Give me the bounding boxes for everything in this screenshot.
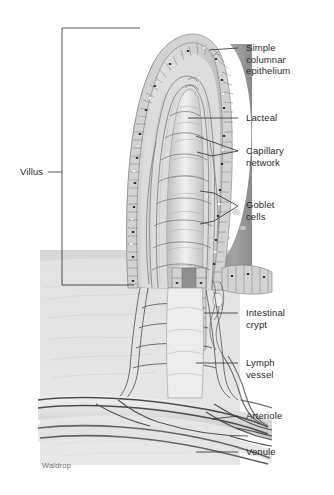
artist-signature: Waldrop <box>42 461 71 470</box>
central-lymph-trunk <box>167 288 204 398</box>
label-villus: Villus <box>20 166 43 178</box>
label-simple-columnar-epithelium: Simple columnar epithelium <box>246 42 290 77</box>
label-lymph-vessel: Lymph vessel <box>246 357 275 380</box>
label-intestinal-crypt: Intestinal crypt <box>246 307 285 330</box>
label-venule: Venule <box>246 446 276 458</box>
label-goblet-cells: Goblet cells <box>246 199 275 222</box>
label-lacteal: Lacteal <box>246 112 277 124</box>
label-capillary-network: Capillary network <box>246 145 284 168</box>
anatomy-figure: Villus Simple columnar epithelium Lactea… <box>0 0 334 495</box>
mucosa-surface <box>222 265 272 294</box>
label-arteriole: Arteriole <box>246 410 282 422</box>
